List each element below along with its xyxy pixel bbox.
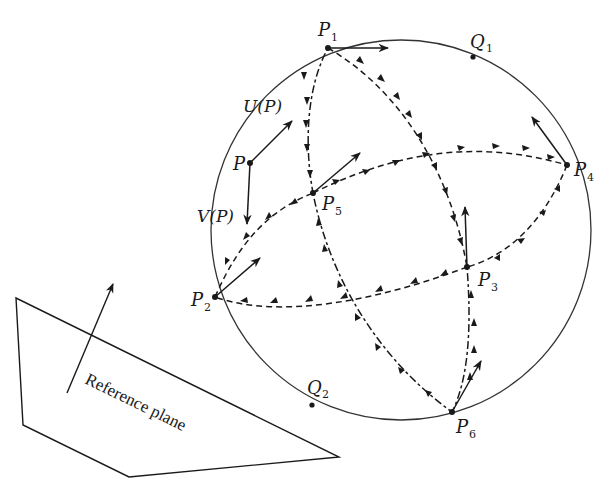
sphere-diagram: Reference plane: [0, 0, 603, 491]
label-q1-sub: 1: [486, 42, 493, 55]
label-p1: P: [317, 19, 331, 40]
label-p2: P: [190, 289, 204, 310]
p2-tangent-arrow: [215, 258, 260, 297]
label-q2-sub: 2: [322, 388, 329, 401]
label-v-of-p: V(P): [197, 206, 234, 226]
label-q1: Q: [470, 31, 485, 52]
p3-tangent-arrow: [465, 207, 467, 267]
label-u-of-p: U(P): [243, 96, 282, 116]
point-q1: [470, 54, 475, 59]
label-p1-sub: 1: [331, 31, 338, 44]
point-labels: P 1 Q 1 P 4 P P 5 P 3 P 2 Q 2 P 6 U(P) V…: [190, 19, 594, 441]
label-p5-sub: 5: [335, 205, 342, 218]
reference-plane-label: Reference plane: [82, 370, 189, 435]
label-p4-sub: 4: [587, 171, 594, 184]
label-p5: P: [321, 193, 335, 214]
point-p2: [212, 294, 218, 300]
reference-plane: Reference plane: [16, 284, 339, 477]
u-of-p-arrow: [250, 121, 292, 163]
label-q2: Q: [307, 377, 322, 398]
label-p2-sub: 2: [204, 301, 211, 314]
p5-tangent-arrow: [313, 153, 360, 193]
point-p5: [310, 190, 316, 196]
label-p6: P: [455, 416, 469, 437]
label-p4: P: [573, 159, 587, 180]
point-q2: [309, 402, 314, 407]
point-p: [247, 160, 253, 166]
point-p4: [564, 162, 570, 168]
label-p3-sub: 3: [491, 281, 498, 294]
label-p3: P: [477, 269, 491, 290]
point-p3: [464, 264, 470, 270]
point-p6: [449, 409, 455, 415]
v-of-p-arrow: [247, 163, 250, 224]
label-p6-sub: 6: [469, 428, 476, 441]
point-p1: [325, 45, 331, 51]
label-p: P: [232, 153, 246, 174]
